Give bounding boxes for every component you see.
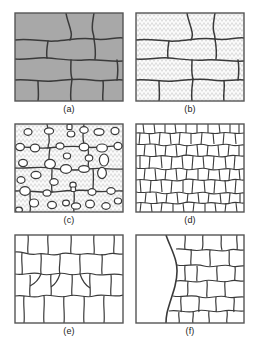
- figure-panel-grid: (a): [0, 0, 259, 347]
- panel-d: [135, 123, 245, 213]
- panel-c-caption: (c): [14, 214, 124, 226]
- panel-a-caption: (a): [14, 103, 124, 115]
- panel-c: [14, 123, 124, 213]
- panel-e-fill: [15, 235, 123, 323]
- panel-f-caption: (f): [135, 325, 245, 337]
- panel-b: [135, 12, 245, 102]
- panel-b-caption: (b): [135, 103, 245, 115]
- panel-e-caption: (e): [14, 325, 124, 337]
- panel-d-caption: (d): [135, 214, 245, 226]
- panel-f: [135, 234, 245, 324]
- panel-e: [14, 234, 124, 324]
- panel-a: [14, 12, 124, 102]
